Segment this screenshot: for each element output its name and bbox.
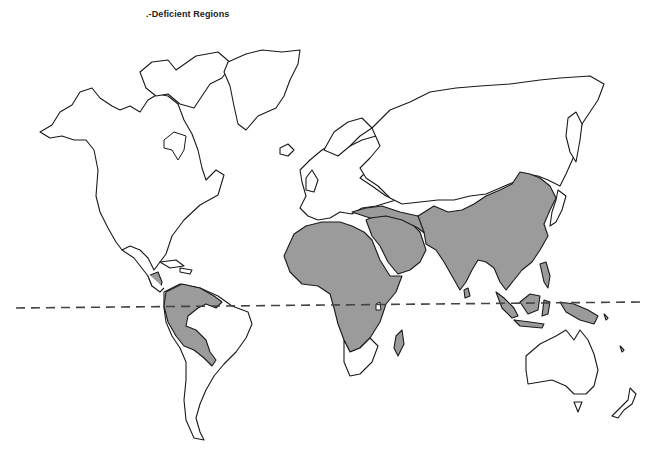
java-shaded (514, 320, 544, 328)
borneo-shaded (520, 294, 540, 314)
world-map (0, 0, 655, 449)
lake-victoria (376, 302, 381, 310)
madagascar (394, 330, 404, 356)
philippines-shaded (540, 262, 550, 288)
greenland (224, 50, 300, 130)
north-america (40, 88, 224, 270)
australia (526, 330, 598, 394)
tasmania (574, 402, 582, 412)
pacific-islands (604, 314, 624, 352)
sumatra-shaded (496, 292, 518, 318)
caribbean (160, 260, 192, 274)
iceland (280, 144, 294, 156)
new-guinea-shaded (560, 302, 598, 324)
new-zealand (612, 388, 636, 418)
sri-lanka (464, 288, 470, 298)
